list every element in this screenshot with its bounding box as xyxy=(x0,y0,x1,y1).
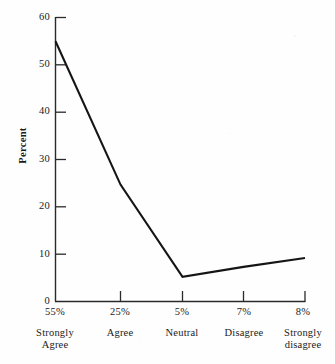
x-category-line1: Agree xyxy=(89,327,151,339)
x-tick-label: 25% xyxy=(89,305,151,318)
x-category-line2: disagree xyxy=(272,339,334,351)
x-tick-label: 7% xyxy=(213,305,275,318)
x-axis-ticks xyxy=(121,291,306,302)
x-axis-labels: 55% Strongly Agree 25% Agree 5% Neutral … xyxy=(0,305,335,364)
x-category-line1: Strongly xyxy=(272,327,334,339)
data-series-line xyxy=(56,41,306,277)
x-category-line2: Agree xyxy=(24,339,86,351)
x-category-neutral: 5% Neutral xyxy=(151,305,213,339)
x-category-line1: Neutral xyxy=(151,327,213,339)
x-tick-label: 5% xyxy=(151,305,213,318)
x-tick-label: 55% xyxy=(24,305,86,318)
x-tick-label: 8% xyxy=(272,305,334,318)
x-category-line1: Disagree xyxy=(213,327,275,339)
x-category-disagree: 7% Disagree xyxy=(213,305,275,339)
x-category-strongly-agree: 55% Strongly Agree xyxy=(24,305,86,351)
x-category-line1: Strongly xyxy=(24,327,86,339)
chart-page: Percent 60 50 40 30 20 10 0 xyxy=(0,0,335,364)
x-category-strongly-disagree: 8% Strongly disagree xyxy=(272,305,334,351)
x-category-agree: 25% Agree xyxy=(89,305,151,339)
